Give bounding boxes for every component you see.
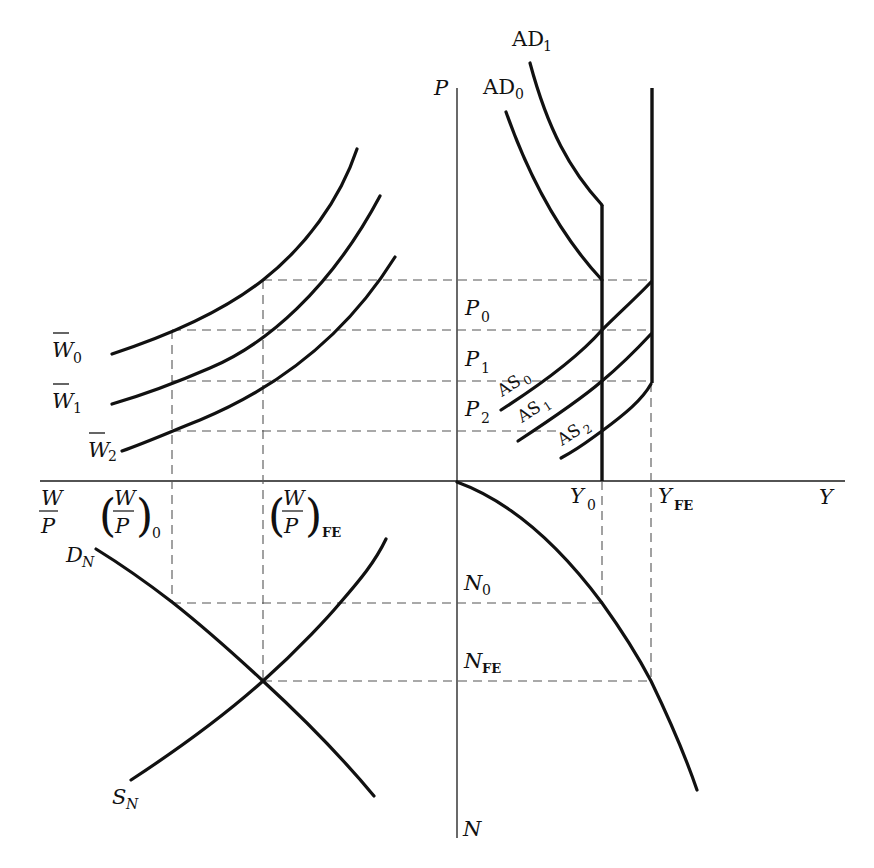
as-curve-0 <box>501 282 651 410</box>
svg-text:1: 1 <box>481 360 490 376</box>
label-yfe: Y FE <box>658 484 693 513</box>
label-ad0: AD 0 <box>482 75 524 102</box>
svg-text:1: 1 <box>73 400 82 416</box>
label-as0: AS 0 <box>492 365 534 404</box>
axis-label-y: Y <box>819 485 835 509</box>
axis-label-wp-num: W <box>41 486 65 510</box>
svg-text:N: N <box>463 571 483 595</box>
ad-curve-1 <box>530 63 602 205</box>
svg-text:P: P <box>464 296 480 320</box>
svg-text:): ) <box>305 490 322 541</box>
axis-label-n: N <box>462 817 482 841</box>
label-dn: D N <box>65 543 95 570</box>
svg-text:P: P <box>114 514 130 538</box>
svg-text:0: 0 <box>515 86 524 102</box>
labor-demand-curve <box>96 549 374 796</box>
svg-text:W: W <box>114 486 138 510</box>
label-sn: S N <box>112 785 139 812</box>
svg-text:P: P <box>464 347 480 371</box>
svg-text:N: N <box>81 554 95 570</box>
label-n0: N 0 <box>463 571 491 598</box>
svg-text:Y: Y <box>658 484 674 508</box>
label-real-wage-0: ( W P ) 0 <box>99 486 161 541</box>
svg-text:N: N <box>463 649 483 673</box>
label-p0: P 0 <box>464 296 490 325</box>
label-ad1: AD 1 <box>511 27 552 54</box>
labor-market-curves <box>96 539 386 796</box>
label-y0: Y 0 <box>570 484 596 513</box>
label-w0: W 0 <box>52 333 82 366</box>
svg-text:AD: AD <box>511 27 544 51</box>
wage-curve-w0 <box>112 149 357 354</box>
svg-text:FE: FE <box>482 661 501 676</box>
label-p2: P 2 <box>464 397 490 426</box>
svg-text:S: S <box>112 785 126 809</box>
production-function-curve <box>457 482 697 790</box>
ad-curve-0 <box>506 112 602 280</box>
svg-text:): ) <box>136 490 153 541</box>
label-as2: AS 2 <box>552 414 594 453</box>
svg-text:FE: FE <box>322 525 341 540</box>
svg-text:2: 2 <box>108 448 117 464</box>
label-p1: P 1 <box>464 347 490 376</box>
axis-label-p: P <box>433 76 449 100</box>
svg-text:N: N <box>125 796 139 812</box>
svg-text:AD: AD <box>482 75 515 99</box>
wage-curves <box>112 149 395 451</box>
label-real-wage-fe: ( W P ) FE <box>268 486 341 541</box>
svg-text:0: 0 <box>481 309 490 325</box>
as-curve-2 <box>561 384 651 458</box>
svg-text:P: P <box>283 514 299 538</box>
axis-label-wp-den: P <box>40 514 56 538</box>
label-nfe: N FE <box>463 649 501 676</box>
svg-text:0: 0 <box>73 350 82 366</box>
labor-supply-curve <box>131 539 386 780</box>
svg-text:P: P <box>464 397 480 421</box>
label-w1: W 1 <box>52 384 82 416</box>
wage-curve-w2 <box>122 257 395 451</box>
svg-text:1: 1 <box>543 38 552 54</box>
svg-text:W: W <box>283 486 307 510</box>
svg-text:0: 0 <box>152 525 161 541</box>
axis-label-wp: W P <box>39 486 65 538</box>
four-quadrant-macro-diagram: W P Y P N W 0 W 1 W 2 AD 1 AD 0 P 0 P 1 … <box>0 0 874 868</box>
svg-text:2: 2 <box>481 410 490 426</box>
wage-curve-w1 <box>112 196 380 404</box>
svg-text:0: 0 <box>482 582 491 598</box>
svg-text:0: 0 <box>587 497 596 513</box>
svg-text:FE: FE <box>674 498 693 513</box>
svg-text:Y: Y <box>570 484 586 508</box>
label-w2: W 2 <box>88 433 117 464</box>
svg-text:D: D <box>65 543 83 567</box>
